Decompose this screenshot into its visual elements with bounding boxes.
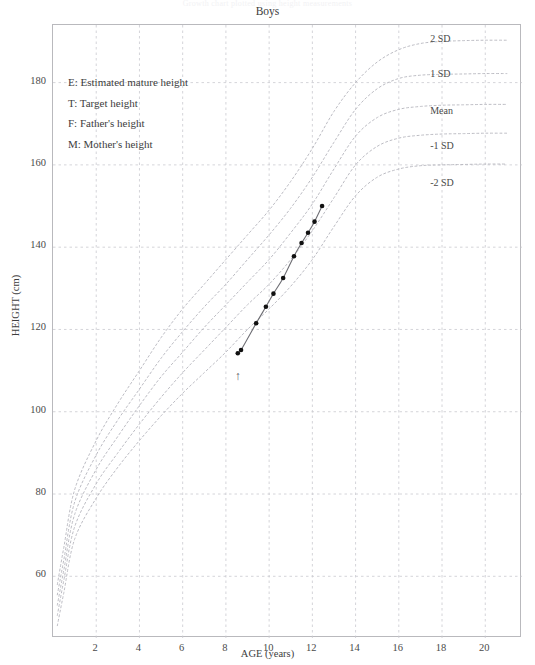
y-axis-title: HEIGHT (cm) [10, 261, 21, 351]
legend: E: Estimated mature height T: Target hei… [68, 72, 188, 154]
sd-label-mean: Mean [430, 105, 453, 116]
patient-data-point[interactable] [281, 276, 286, 281]
legend-item-m: M: Mother's height [68, 134, 188, 155]
sd-label-2-sd: 2 SD [430, 33, 450, 44]
patient-data-point[interactable] [306, 230, 311, 235]
patient-data-point[interactable] [312, 219, 317, 224]
patient-data-point[interactable] [292, 254, 297, 259]
patient-data-point[interactable] [320, 204, 325, 209]
sd-label--1-sd: -1 SD [430, 140, 454, 151]
patient-data-point[interactable] [235, 351, 240, 356]
reference-curve--1-sd [57, 133, 507, 615]
patient-data-point[interactable] [271, 291, 276, 296]
sd-label--2-sd: -2 SD [430, 177, 454, 188]
chart-title: Boys [0, 5, 535, 17]
y-axis-tick-80: 80 [12, 486, 46, 497]
x-axis-title: AGE (years) [0, 648, 535, 659]
y-axis-tick-180: 180 [12, 75, 46, 86]
legend-item-e: E: Estimated mature height [68, 72, 188, 93]
reference-curve--2-sd [57, 164, 507, 626]
patient-data-point[interactable] [264, 305, 269, 310]
y-axis-tick-140: 140 [12, 239, 46, 250]
y-axis-tick-160: 160 [12, 157, 46, 168]
y-axis-tick-60: 60 [12, 568, 46, 579]
growth-chart-page: Growth chart plotted using height measur… [0, 0, 535, 665]
patient-data-point[interactable] [239, 348, 244, 353]
legend-item-t: T: Target height [68, 93, 188, 114]
legend-item-f: F: Father's height [68, 113, 188, 134]
patient-data-point[interactable] [254, 321, 259, 326]
y-axis-tick-100: 100 [12, 404, 46, 415]
patient-data-point[interactable] [299, 241, 304, 246]
sd-label-1-sd: 1 SD [430, 68, 450, 79]
onset-arrow-icon: ↑ [232, 369, 244, 384]
